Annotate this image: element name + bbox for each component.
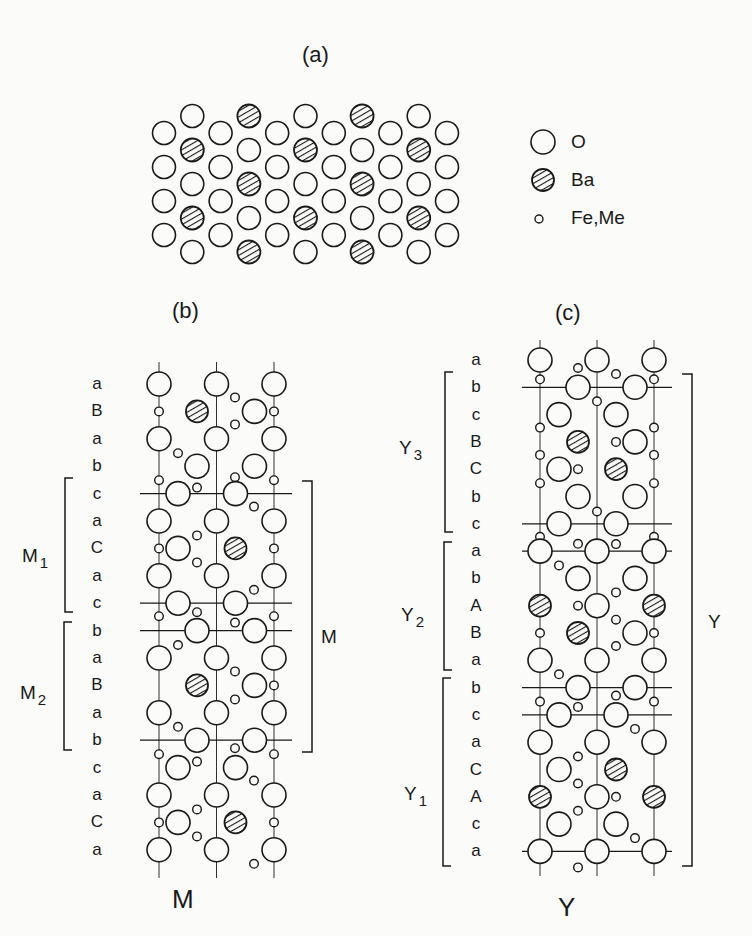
oxygen-atom	[547, 758, 571, 782]
iron-atom	[270, 818, 279, 827]
oxygen-atom	[528, 839, 552, 863]
oxygen-atom	[566, 375, 590, 399]
oxygen-atom	[166, 482, 190, 506]
oxygen-atom	[205, 701, 229, 725]
barium-atom	[186, 400, 208, 422]
oxygen-atom	[262, 701, 286, 725]
oxygen-atom	[547, 457, 571, 481]
panel-b-m-structure	[140, 362, 292, 878]
iron-atom	[536, 451, 545, 460]
oxygen-atom	[379, 122, 402, 145]
iron-atom	[574, 364, 583, 373]
iron-atom	[193, 832, 202, 841]
oxygen-atom	[147, 783, 171, 807]
oxygen-atom	[266, 156, 289, 179]
barium-atom	[186, 674, 208, 696]
oxygen-atom	[147, 701, 171, 725]
barium-atom	[643, 595, 665, 617]
oxygen-atom	[322, 224, 345, 247]
oxygen-atom	[147, 646, 171, 670]
oxygen-atom	[166, 591, 190, 615]
barium-atom	[237, 105, 260, 128]
iron-atom	[574, 601, 583, 610]
oxygen-atom	[528, 648, 552, 672]
oxygen-atom	[623, 430, 647, 454]
barium-atom	[567, 431, 589, 453]
iron-atom	[574, 752, 583, 761]
oxygen-atom	[322, 156, 345, 179]
oxygen-atom	[436, 190, 459, 213]
oxygen-atom	[623, 566, 647, 590]
oxygen-atom	[205, 783, 229, 807]
iron-atom	[270, 407, 279, 416]
oxygen-atom	[153, 224, 176, 247]
oxygen-atom	[351, 139, 374, 162]
oxygen-atom	[294, 105, 317, 128]
iron-atom	[536, 629, 545, 638]
barium-atom	[407, 207, 430, 230]
oxygen-atom	[262, 646, 286, 670]
oxygen-atom	[322, 122, 345, 145]
oxygen-atom	[209, 224, 232, 247]
iron-atom	[536, 423, 545, 432]
bracket-y3	[445, 372, 453, 532]
oxygen-atom	[566, 485, 590, 509]
iron-atom	[574, 540, 583, 549]
oxygen-atom	[153, 156, 176, 179]
oxygen-atom	[436, 122, 459, 145]
iron-atom	[231, 618, 240, 627]
oxygen-atom	[604, 403, 628, 427]
iron-atom	[231, 393, 240, 402]
iron-atom	[650, 697, 659, 706]
oxygen-atom	[185, 454, 209, 478]
oxygen-atom	[566, 566, 590, 590]
iron-atom	[250, 586, 259, 595]
oxygen-atom	[243, 673, 267, 697]
oxygen-atom	[237, 207, 260, 230]
iron-atom	[650, 451, 659, 460]
barium-atom	[237, 241, 260, 264]
iron-atom	[155, 544, 164, 553]
oxygen-atom	[294, 241, 317, 264]
oxygen-atom	[147, 509, 171, 533]
oxygen-atom	[436, 224, 459, 247]
oxygen-atom	[642, 839, 666, 863]
oxygen-atom	[209, 190, 232, 213]
oxygen-atom	[262, 509, 286, 533]
iron-atom	[593, 397, 602, 406]
barium-atom	[407, 139, 430, 162]
barium-atom	[181, 139, 204, 162]
oxygen-atom	[585, 348, 609, 372]
iron-atom-icon	[535, 215, 543, 223]
oxygen-atom	[262, 427, 286, 451]
oxygen-atom-icon	[531, 130, 555, 154]
oxygen-atom	[224, 591, 248, 615]
oxygen-atom	[262, 372, 286, 396]
iron-atom	[155, 612, 164, 621]
oxygen-atom	[642, 648, 666, 672]
oxygen-atom	[566, 676, 590, 700]
iron-atom	[155, 407, 164, 416]
oxygen-atom	[181, 173, 204, 196]
oxygen-atom	[379, 156, 402, 179]
oxygen-atom	[266, 224, 289, 247]
oxygen-atom	[147, 427, 171, 451]
barium-atom	[181, 207, 204, 230]
oxygen-atom	[205, 372, 229, 396]
iron-atom	[270, 750, 279, 759]
iron-atom	[650, 629, 659, 638]
oxygen-atom	[147, 564, 171, 588]
bracket-m	[302, 481, 312, 752]
barium-atom	[643, 786, 665, 808]
crystal-structure-diagram	[0, 0, 752, 936]
oxygen-atom	[585, 730, 609, 754]
iron-atom	[250, 502, 259, 511]
iron-atom	[231, 667, 240, 676]
iron-atom	[612, 540, 621, 549]
oxygen-atom	[436, 156, 459, 179]
oxygen-atom	[185, 728, 209, 752]
oxygen-atom	[166, 810, 190, 834]
oxygen-atom	[585, 648, 609, 672]
iron-atom	[555, 561, 564, 570]
iron-atom	[650, 479, 659, 488]
